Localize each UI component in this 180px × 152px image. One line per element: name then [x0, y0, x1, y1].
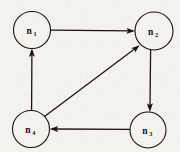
node-n4-label: n [25, 125, 31, 135]
node-n1-label: n [27, 26, 33, 36]
edge-n3-to-n4 [50, 126, 130, 132]
edge-n4-to-n1 [29, 48, 35, 110]
node-n1-subscript: 1 [33, 30, 36, 37]
node-n1-circle[interactable] [14, 12, 51, 49]
edge-n2-to-n3-line [150, 50, 151, 108]
node-n2-circle[interactable] [135, 12, 173, 50]
node-n1[interactable]: n 1 [14, 12, 51, 49]
graph-canvas: n 1 n 2 n 3 n 4 [0, 0, 180, 152]
node-n4-circle[interactable] [13, 111, 50, 148]
node-n3[interactable]: n 3 [130, 112, 166, 148]
edge-n1-to-n2-line [51, 30, 133, 31]
node-n2-label: n [148, 27, 154, 37]
node-n2-subscript: 2 [155, 31, 158, 38]
node-n3-label: n [142, 126, 148, 136]
edge-n4-to-n2 [45, 45, 140, 116]
edge-n1-to-n2 [51, 28, 136, 34]
node-n4[interactable]: n 4 [13, 111, 50, 148]
directed-graph-figure: n 1 n 2 n 3 n 4 [0, 0, 180, 152]
node-n2[interactable]: n 2 [135, 12, 173, 50]
edge-n4-to-n2-line [45, 48, 137, 117]
edge-n2-to-n3 [147, 50, 153, 112]
node-n3-subscript: 3 [149, 130, 152, 137]
node-n4-subscript: 4 [32, 129, 35, 136]
node-n3-circle[interactable] [130, 112, 166, 148]
